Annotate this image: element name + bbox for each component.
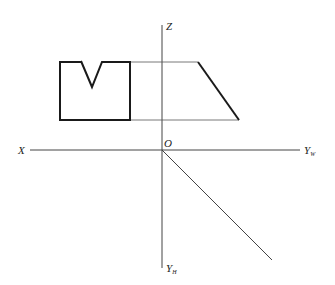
- x-axis-label: X: [17, 144, 26, 156]
- yw-yh-45-line: [162, 150, 272, 260]
- front-view-outline: [60, 61, 130, 120]
- projection-diagram: Z O X YW YH: [0, 0, 335, 285]
- yh-axis-label: YH: [166, 262, 177, 275]
- side-view-slant-edge: [198, 62, 239, 120]
- z-axis-label: Z: [166, 20, 173, 32]
- origin-label: O: [164, 137, 172, 149]
- yw-axis-label: YW: [304, 144, 316, 157]
- yw-label-sub: W: [310, 151, 316, 157]
- yh-label-sub: H: [171, 269, 177, 275]
